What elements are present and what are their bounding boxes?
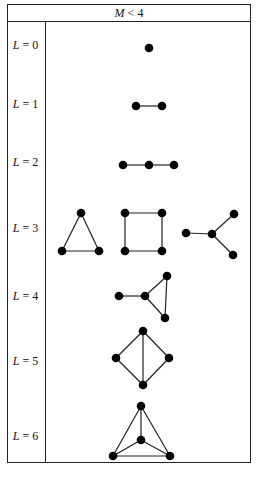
graph-l-3-triangle: [58, 209, 104, 256]
edge: [165, 276, 167, 318]
edge: [116, 358, 143, 385]
edge: [116, 331, 143, 358]
graph-l-1: [132, 102, 167, 111]
node: [121, 209, 130, 218]
node: [145, 44, 154, 53]
node: [115, 292, 124, 301]
graph-l-2: [119, 161, 179, 170]
edge: [212, 234, 233, 255]
node: [112, 354, 121, 363]
graphs-canvas: [0, 0, 259, 478]
node: [158, 209, 167, 218]
graph-l-4: [115, 272, 172, 323]
node: [229, 251, 238, 260]
node: [182, 229, 191, 238]
node: [161, 314, 170, 323]
edge: [143, 331, 169, 358]
node: [165, 354, 174, 363]
node: [139, 381, 148, 390]
node: [139, 327, 148, 336]
node: [137, 402, 146, 411]
node: [119, 161, 128, 170]
node: [158, 102, 167, 111]
node: [132, 102, 141, 111]
edge: [212, 214, 234, 234]
node: [109, 452, 118, 461]
node: [230, 210, 239, 219]
node: [141, 292, 150, 301]
graph-l-6: [109, 402, 175, 461]
graph-l-0: [145, 44, 154, 53]
edge: [62, 213, 81, 251]
node: [158, 247, 167, 256]
node: [137, 436, 146, 445]
graph-l-3-star: [182, 210, 239, 260]
node: [208, 230, 217, 239]
edge: [81, 213, 99, 251]
node: [95, 247, 104, 256]
graph-l-5: [112, 327, 174, 390]
node: [145, 161, 154, 170]
node: [77, 209, 86, 218]
edge: [145, 276, 167, 296]
node: [163, 272, 172, 281]
node: [121, 247, 130, 256]
edge: [143, 358, 169, 385]
graph-l-3-square: [121, 209, 167, 256]
node: [166, 452, 175, 461]
node: [170, 161, 179, 170]
node: [58, 247, 67, 256]
edge: [145, 296, 165, 318]
